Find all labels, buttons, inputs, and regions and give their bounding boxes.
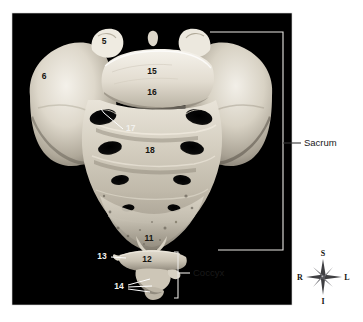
compass-label-left: L	[344, 273, 349, 282]
coccyx-callout-label: Coccyx	[193, 267, 224, 278]
label-number-11: 11	[145, 233, 154, 243]
sacrum-callout-label: Sacrum	[304, 137, 337, 148]
compass-hub-highlight	[322, 275, 324, 277]
label-number-17: 17	[126, 123, 136, 133]
label-number-12: 12	[142, 254, 152, 264]
anatomy-figure-container: Sacrum Coccyx 5 6 15 16 17 18 11 12 1	[0, 0, 363, 322]
sacrum-coccyx-figure: Sacrum Coccyx 5 6 15 16 17 18 11 12 1	[0, 0, 363, 322]
compass-label-right: R	[297, 273, 303, 282]
compass-label-inferior: I	[321, 297, 324, 306]
label-number-5: 5	[102, 36, 107, 46]
label-number-14: 14	[114, 281, 124, 291]
compass-hub	[321, 275, 325, 279]
compass-label-superior: S	[321, 249, 326, 258]
label-number-16: 16	[147, 87, 157, 97]
label-number-6: 6	[42, 71, 47, 81]
label-number-13: 13	[97, 251, 107, 261]
label-number-18: 18	[145, 145, 155, 155]
label-number-15: 15	[147, 66, 157, 76]
